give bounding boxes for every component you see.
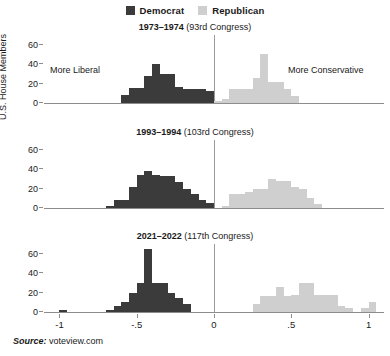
- histogram-bar: [214, 101, 222, 103]
- plot-inner: 0204060: [44, 140, 384, 208]
- histogram-bar: [291, 96, 299, 103]
- histogram-bar: [137, 88, 145, 103]
- chart-figure: Democrat Republican U.S. House Members 1…: [0, 0, 390, 356]
- histogram-bar: [106, 310, 114, 312]
- histogram-bar: [206, 91, 214, 103]
- histogram-bar: [284, 181, 292, 208]
- source-prefix: Source:: [13, 336, 47, 346]
- histogram-bar: [253, 189, 261, 208]
- y-axis-tick-label: 60: [28, 249, 38, 259]
- histogram-bar: [229, 89, 237, 103]
- histogram-bar: [276, 287, 284, 312]
- histogram-bar: [160, 176, 168, 208]
- histogram-bar: [222, 99, 230, 103]
- zero-reference-line: [214, 35, 215, 103]
- histogram-bar: [369, 302, 377, 312]
- y-axis-tick-label: 0: [33, 307, 38, 317]
- histogram-bar: [307, 283, 315, 312]
- y-axis-tick-mark: [39, 149, 43, 150]
- histogram-bar: [144, 76, 152, 103]
- histogram-bar: [345, 308, 353, 312]
- histogram-bar: [222, 206, 230, 208]
- histogram-bar: [314, 204, 322, 208]
- y-axis-tick-label: 40: [28, 268, 38, 278]
- y-axis-tick-label: 20: [28, 79, 38, 89]
- x-axis-tick-label: .5: [287, 319, 295, 330]
- source-text: voteview.com: [47, 336, 104, 346]
- y-axis-tick-mark: [39, 311, 43, 312]
- legend-label-democrat: Democrat: [140, 5, 185, 16]
- panel-title: 2021–2022 (117th Congress): [0, 231, 390, 242]
- histogram-bar: [199, 89, 207, 103]
- histogram-bar: [183, 304, 191, 312]
- zero-reference-line: [214, 244, 215, 312]
- histogram-bar: [129, 187, 137, 208]
- histogram-bar: [152, 175, 160, 208]
- histogram-bar: [260, 189, 268, 208]
- histogram-bar: [253, 78, 261, 103]
- histogram-bar: [260, 54, 268, 103]
- y-axis-tick-label: 20: [28, 288, 38, 298]
- histogram-bar: [253, 304, 261, 312]
- y-axis-tick-label: 60: [28, 145, 38, 155]
- histogram-bar: [59, 310, 67, 312]
- chart-legend: Democrat Republican: [0, 5, 390, 16]
- histogram-bar: [338, 306, 346, 312]
- x-axis-tick-mark: [214, 314, 215, 318]
- histogram-bar: [245, 89, 253, 103]
- y-axis-tick-mark: [39, 272, 43, 273]
- y-axis-tick-label: 0: [33, 98, 38, 108]
- source-note: Source: voteview.com: [13, 336, 103, 346]
- histogram-bar: [160, 74, 168, 103]
- histogram-bar: [175, 298, 183, 312]
- panel-title-years: 2021–2022: [137, 231, 182, 241]
- x-axis-tick-label: 0: [211, 319, 216, 330]
- histogram-bar: [322, 295, 330, 312]
- histogram-bar: [268, 179, 276, 208]
- y-axis-tick-mark: [39, 168, 43, 169]
- histogram-bar: [191, 89, 199, 103]
- zero-reference-line: [214, 140, 215, 208]
- histogram-bar: [206, 203, 214, 208]
- histogram-bar: [183, 89, 191, 103]
- y-axis-tick-mark: [39, 253, 43, 254]
- histogram-bar: [152, 64, 160, 103]
- x-axis-tick-label: -.5: [131, 319, 142, 330]
- histogram-bar: [307, 198, 315, 208]
- legend-item-democrat: Democrat: [126, 5, 185, 16]
- panel-title-years: 1973–1974: [139, 22, 184, 32]
- histogram-bar: [121, 302, 129, 312]
- histogram-bar: [168, 176, 176, 208]
- histogram-bar: [129, 88, 137, 103]
- histogram-bar: [291, 295, 299, 312]
- x-axis-tick-label: 1: [366, 319, 371, 330]
- histogram-bar: [183, 189, 191, 208]
- histogram-bar: [160, 283, 168, 312]
- y-axis-tick-mark: [39, 102, 43, 103]
- histogram-bar: [152, 283, 160, 312]
- histogram-bar: [129, 293, 137, 312]
- histogram-bar: [106, 206, 114, 208]
- panel-title-congress: (103rd Congress): [181, 127, 254, 137]
- histogram-bar: [137, 283, 145, 312]
- plot-area: 0204060: [44, 140, 384, 209]
- histogram-bar: [121, 200, 129, 208]
- y-axis-tick-label: 40: [28, 164, 38, 174]
- square-swatch-icon: [126, 6, 135, 15]
- panel-title-congress: (93rd Congress): [184, 22, 252, 32]
- histogram-bar: [268, 82, 276, 103]
- histogram-bar: [175, 182, 183, 208]
- y-axis-tick-mark: [39, 63, 43, 64]
- panel-title: 1993–1994 (103rd Congress): [0, 127, 390, 138]
- x-axis-tick-mark: [369, 314, 370, 318]
- histogram-bar: [137, 175, 145, 208]
- histogram-bar: [114, 200, 122, 208]
- histogram-bar: [144, 171, 152, 208]
- histogram-bar: [299, 189, 307, 208]
- histogram-bar: [276, 82, 284, 103]
- histogram-bar: [260, 296, 268, 312]
- histogram-bar: [361, 308, 369, 312]
- panel-title-years: 1993–1994: [136, 127, 181, 137]
- histogram-bar: [276, 181, 284, 208]
- y-axis-tick-mark: [39, 44, 43, 45]
